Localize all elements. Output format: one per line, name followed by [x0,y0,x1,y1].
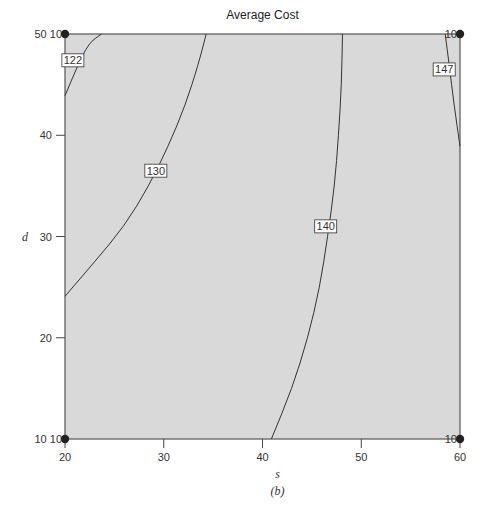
contour-label-130: 130 [147,165,165,177]
corner-marker-label: 10 [445,28,457,40]
corner-marker-label: 50 10 [34,28,62,40]
x-tick-label: 50 [355,451,367,463]
x-tick-label: 20 [59,451,71,463]
contour-label-122: 122 [64,54,82,66]
corner-marker-label: 10 10 [34,433,62,445]
x-axis-label: s [275,467,280,481]
x-tick-label: 40 [256,451,268,463]
corner-marker-label: 10 [445,433,457,445]
corner-marker-dot [61,30,69,38]
y-tick-label: 30 [40,231,52,243]
x-tick-label: 30 [158,451,170,463]
y-axis-label: d [22,230,29,244]
contour-label-140: 140 [317,220,335,232]
contour-label-147: 147 [435,63,453,75]
x-tick-label: 60 [454,451,466,463]
plot-area [65,34,460,439]
y-tick-label: 20 [40,332,52,344]
chart-subtitle: (b) [271,484,285,498]
y-tick-label: 40 [40,129,52,141]
corner-marker-dot [456,30,464,38]
contour-chart: 122130140147203040506020304050 101010 10… [0,0,485,514]
corner-marker-dot [61,435,69,443]
corner-marker-dot [456,435,464,443]
